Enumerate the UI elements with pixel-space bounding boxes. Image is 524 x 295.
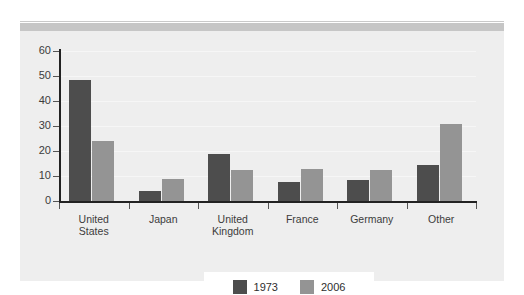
x-axis-category-label-line: Kingdom [198,225,268,237]
bar-other-2006 [440,124,462,202]
x-axis-category-label: UnitedKingdom [198,213,268,237]
chart-panel: 0102030405060 UnitedStatesJapanUnitedKin… [20,31,504,281]
bar-germany-2006 [370,170,392,201]
x-axis-category-label-line: States [59,225,129,237]
x-axis-tick [337,203,338,209]
bar-germany-1973 [347,180,369,201]
legend-swatch-icon [233,280,247,294]
x-axis-category-label-line: Japan [129,213,199,225]
x-axis-category-label: France [268,213,338,225]
x-axis-tick [268,203,269,209]
y-axis-tick-label: 0 [23,195,51,206]
chart-figure: 0102030405060 UnitedStatesJapanUnitedKin… [0,0,524,295]
x-axis-category-label: Germany [337,213,407,225]
legend-item-2006[interactable]: 2006 [300,280,345,294]
y-axis-labels: 0102030405060 [20,31,51,281]
x-axis-tick [59,203,60,209]
x-axis-tick [129,203,130,209]
x-axis-category-label-line: United [59,213,129,225]
y-axis-tick-label: 40 [23,95,51,106]
y-axis-tick-label: 30 [23,120,51,131]
x-axis-category-label-line: United [198,213,268,225]
legend-item-1973[interactable]: 1973 [233,280,278,294]
x-axis-tick [198,203,199,209]
top-divider-line [20,21,504,22]
legend-swatch-icon [300,280,314,294]
x-axis-category-label: UnitedStates [59,213,129,237]
chart-legend: 19732006 [204,272,374,295]
x-axis-category-label-line: France [268,213,338,225]
y-axis-tick-label: 50 [23,70,51,81]
bar-japan-1973 [139,191,161,201]
plot-area [59,51,476,201]
bar-united-states-2006 [92,141,114,201]
bar-united-kingdom-1973 [208,154,230,202]
x-axis-tick [407,203,408,209]
bar-united-kingdom-2006 [231,170,253,201]
x-axis-category-label-line: Other [407,213,477,225]
x-axis-category-label: Japan [129,213,199,225]
bar-france-2006 [301,169,323,202]
y-axis-tick-label: 60 [23,45,51,56]
x-axis-category-label: Other [407,213,477,225]
bar-japan-2006 [162,179,184,202]
y-axis-tick-label: 10 [23,170,51,181]
x-axis-category-label-line: Germany [337,213,407,225]
legend-label: 2006 [321,281,345,293]
bar-united-states-1973 [69,80,91,201]
header-band [20,23,504,31]
bar-other-1973 [417,165,439,201]
y-axis-tick-label: 20 [23,145,51,156]
x-axis-tick [476,203,477,209]
legend-label: 1973 [254,281,278,293]
bar-france-1973 [278,182,300,201]
